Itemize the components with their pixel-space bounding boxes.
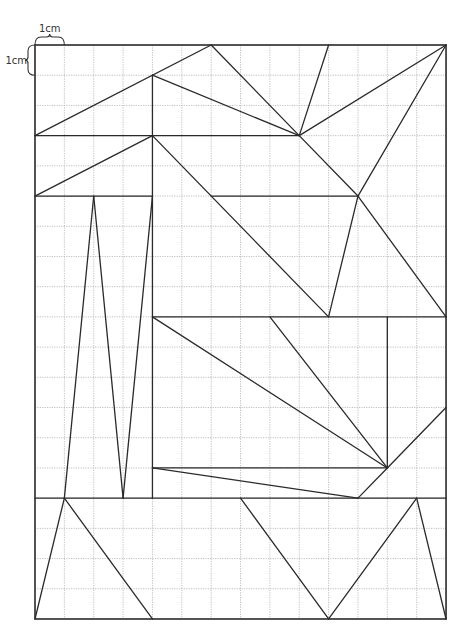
shape-segment — [329, 498, 417, 619]
shape-segment — [299, 45, 446, 136]
shape-segment — [152, 468, 358, 498]
shape-segment — [152, 317, 387, 468]
dotted-grid — [35, 45, 446, 619]
shape-segment — [358, 468, 387, 498]
shape-segment — [358, 45, 446, 196]
shape-segment — [211, 45, 299, 136]
scale-annotation-horizontal: 1cm — [35, 23, 64, 45]
label-1cm-vertical: 1cm — [5, 55, 27, 66]
shape-segment — [270, 317, 387, 468]
brace-horizontal — [35, 34, 64, 45]
grid-diagram: 1cm 1cm — [0, 0, 465, 639]
shape-segment — [299, 45, 328, 136]
label-1cm-horizontal: 1cm — [39, 23, 61, 34]
scale-annotation-vertical: 1cm — [5, 45, 35, 75]
